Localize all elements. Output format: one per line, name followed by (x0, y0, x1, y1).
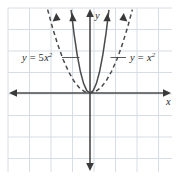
wide-parabola-right-arrow-icon (119, 13, 127, 22)
y-axis-label: y (94, 10, 100, 21)
svg-text:y=5x2: y=5x2 (21, 51, 53, 63)
svg-text:y=x2: y=x2 (129, 51, 156, 63)
x-axis-label: x (165, 96, 171, 107)
right-equation-label: y=x2 (129, 51, 156, 63)
left-label-y: y (21, 52, 27, 63)
y-axis-top-arrow-icon (86, 9, 94, 17)
right-label-exponent: 2 (152, 51, 156, 59)
right-label-equals: = (138, 52, 144, 63)
parabola-comparison-figure: y x y=5x2 y=x2 (0, 0, 179, 180)
narrow-parabola-right-arrow-icon (103, 13, 110, 21)
left-label-coefficient: 5 (39, 52, 44, 63)
left-label-exponent: 2 (49, 51, 53, 59)
left-equation-label: y=5x2 (21, 51, 53, 63)
wide-parabola-left-arrow-icon (53, 13, 61, 22)
left-label-equals: = (30, 52, 36, 63)
right-label-y: y (129, 52, 135, 63)
y-axis-bottom-arrow-icon (86, 163, 94, 171)
x-axis-left-arrow-icon (9, 89, 17, 97)
axes (9, 9, 171, 171)
